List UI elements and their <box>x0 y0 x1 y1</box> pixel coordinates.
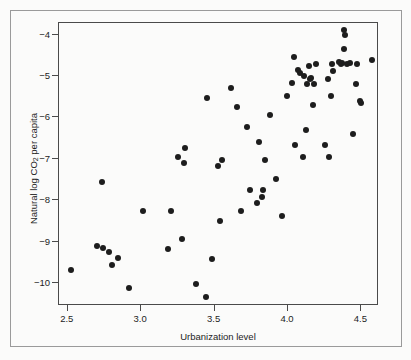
data-point <box>308 75 314 81</box>
data-point <box>115 255 121 261</box>
x-axis-title: Urbanization level <box>58 331 378 342</box>
data-point <box>313 61 319 67</box>
data-point <box>219 157 225 163</box>
data-point <box>181 160 187 166</box>
data-point <box>182 145 188 151</box>
data-point <box>284 93 290 99</box>
y-axis-title: Natural log CO2 per capita <box>28 44 39 294</box>
data-point <box>369 57 375 63</box>
data-point <box>347 60 353 66</box>
x-axis-tick-label: 3.0 <box>120 313 160 324</box>
y-axis-tick-mark <box>52 199 58 200</box>
data-point <box>175 154 181 160</box>
data-point <box>328 93 334 99</box>
data-point <box>353 81 359 87</box>
data-point <box>262 157 268 163</box>
data-point <box>310 102 316 108</box>
data-point <box>126 285 132 291</box>
plot-frame <box>58 22 378 305</box>
data-point <box>179 236 185 242</box>
data-point <box>99 179 105 185</box>
data-point <box>165 246 171 252</box>
data-point <box>267 112 273 118</box>
x-axis-tick-mark <box>360 305 361 311</box>
y-axis-tick-mark <box>52 34 58 35</box>
y-axis-tick-mark <box>52 282 58 283</box>
x-axis-tick-mark <box>140 305 141 311</box>
y-axis-title-suffix: per capita <box>28 113 39 157</box>
data-point <box>215 163 221 169</box>
data-point <box>350 131 356 137</box>
data-point <box>217 218 223 224</box>
x-axis-tick-label: 3.5 <box>194 313 234 324</box>
data-point <box>303 127 309 133</box>
x-axis-tick-label: 2.5 <box>47 313 87 324</box>
data-point <box>292 142 298 148</box>
data-point <box>193 281 199 287</box>
x-axis-tick-label: 4.5 <box>340 313 380 324</box>
y-axis-tick-mark <box>52 158 58 159</box>
data-point <box>311 81 317 87</box>
data-point <box>322 142 328 148</box>
data-point <box>244 124 250 130</box>
data-point <box>259 194 265 200</box>
scatter-plot-area <box>59 23 377 304</box>
data-point <box>109 262 115 268</box>
data-point <box>68 267 74 273</box>
data-point <box>234 104 240 110</box>
y-axis-tick-label: −4 <box>8 28 50 39</box>
data-point <box>140 208 146 214</box>
data-point <box>279 213 285 219</box>
data-point <box>203 294 209 300</box>
data-point <box>256 139 262 145</box>
data-point <box>329 61 335 67</box>
data-point <box>354 61 360 67</box>
data-point <box>273 176 279 182</box>
x-axis-tick-mark <box>67 305 68 311</box>
y-axis-tick-mark <box>52 75 58 76</box>
data-point <box>304 81 310 87</box>
data-point <box>330 68 336 74</box>
x-axis-tick-mark <box>287 305 288 311</box>
data-point <box>326 154 332 160</box>
data-point <box>209 256 215 262</box>
data-point <box>254 200 260 206</box>
data-point <box>100 245 106 251</box>
data-point <box>325 76 331 82</box>
y-axis-title-subscript: 2 <box>32 157 39 161</box>
data-point <box>291 54 297 60</box>
data-point <box>289 80 295 86</box>
data-point <box>168 208 174 214</box>
data-point <box>260 187 266 193</box>
data-point <box>238 208 244 214</box>
data-point <box>358 100 364 106</box>
x-axis-tick-label: 4.0 <box>267 313 307 324</box>
y-axis-tick-mark <box>52 241 58 242</box>
data-point <box>342 32 348 38</box>
y-axis-title-prefix: Natural log CO <box>28 161 39 224</box>
data-point <box>204 95 210 101</box>
x-axis-tick-mark <box>214 305 215 311</box>
data-point <box>247 187 253 193</box>
y-axis-tick-mark <box>52 116 58 117</box>
data-point <box>106 249 112 255</box>
data-point <box>306 63 312 69</box>
data-point <box>228 85 234 91</box>
data-point <box>300 154 306 160</box>
figure-container: −4−5−6−7−8−9−10 2.53.03.54.04.5 Urbaniza… <box>0 0 411 360</box>
data-point <box>341 46 347 52</box>
